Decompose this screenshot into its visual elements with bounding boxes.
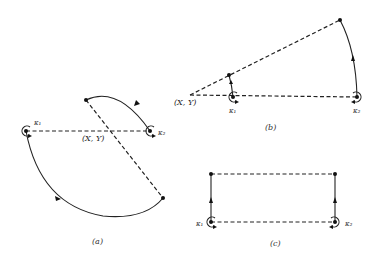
panel-a-bottom-point (161, 196, 165, 200)
panel-c-left-arrow-icon (209, 197, 213, 203)
panel-a-kappa1-label: κ₁ (33, 119, 42, 127)
panel-a-upper-arrow-icon (134, 100, 140, 106)
vortex-pair-diagram: κ₁ κ₂ (X, Y) (a) κ₁ κ₂ (X, Y) (0, 0, 380, 265)
panel-a-kappa2-label: κ₂ (157, 129, 166, 137)
panel-a-vortex-2-icon (146, 126, 156, 138)
panel-c-kappa2-label: κ₂ (344, 220, 353, 228)
panel-a-caption: (a) (92, 237, 103, 246)
panel-c-top-right-point (333, 172, 337, 176)
panel-c-kappa1-label: κ₁ (195, 220, 204, 228)
panel-b-vortex-1-icon (229, 92, 239, 104)
panel-b-caption: (b) (265, 123, 276, 132)
panel-c-vortex-1-icon (207, 217, 217, 229)
panel-b: κ₁ κ₂ (X, Y) (b) (174, 18, 361, 132)
panel-a-rotated-line (86, 100, 163, 198)
panel-b-inner-arrow-icon (229, 80, 233, 84)
panel-b-vortex-2-icon (351, 92, 361, 104)
panel-b-point-label: (X, Y) (174, 98, 196, 107)
panel-a-point-label: (X, Y) (82, 134, 104, 143)
panel-c: κ₁ κ₂ (c) (195, 172, 353, 248)
panel-c-caption: (c) (270, 239, 281, 248)
panel-b-inner-point (227, 73, 231, 77)
panel-a-vortex-1-icon (22, 126, 32, 138)
panel-a: κ₁ κ₂ (X, Y) (a) (22, 96, 166, 246)
panel-a-upper-arc (86, 96, 150, 131)
panel-b-kappa1-label: κ₁ (228, 107, 237, 115)
panel-b-outer-point (338, 18, 342, 22)
panel-b-outer-arrow-icon (351, 55, 355, 61)
panel-b-outer-arc (340, 20, 357, 97)
panel-c-vortex-2-icon (329, 217, 339, 229)
panel-c-right-arrow-icon (333, 197, 337, 203)
panel-c-top-left-point (209, 172, 213, 176)
panel-a-lower-arc (26, 131, 163, 217)
panel-b-kappa2-label: κ₂ (352, 107, 361, 115)
panel-b-baseline (190, 95, 357, 97)
panel-b-rotated-line (190, 20, 340, 95)
panel-a-top-point (84, 98, 88, 102)
